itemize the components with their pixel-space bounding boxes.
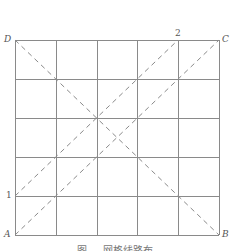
corner-label-d: D xyxy=(4,35,11,44)
grid-lines xyxy=(15,40,220,236)
figure-caption: 图 — 网格线路布 xyxy=(0,244,230,251)
grid-svg xyxy=(0,0,230,251)
corner-label-c: C xyxy=(222,35,229,44)
corner-label-b: B xyxy=(222,230,229,239)
corner-label-a: A xyxy=(4,230,11,239)
point-label-1: 1 xyxy=(6,191,12,200)
dashed-diagonals xyxy=(15,40,219,235)
grid-diagram: D C A B 1 2 图 — 网格线路布 xyxy=(0,0,230,251)
point-label-2: 2 xyxy=(175,29,181,38)
